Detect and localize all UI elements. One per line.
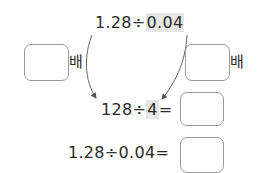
left-factor-answer-box[interactable] — [24, 44, 69, 81]
left-factor-unit: 배 — [69, 53, 83, 71]
top-operator: ÷ — [132, 13, 146, 32]
right-factor-answer-box[interactable] — [185, 44, 230, 81]
middle-answer-box[interactable] — [180, 92, 224, 126]
top-dividend: 1.28 — [95, 13, 132, 32]
bottom-operator: ÷ — [105, 143, 119, 162]
middle-equals: = — [159, 100, 173, 119]
right-arrow-icon — [162, 35, 187, 99]
top-expression: 1.28÷0.04 — [95, 13, 184, 33]
bottom-equals: = — [155, 143, 169, 162]
right-factor-unit: 배 — [230, 53, 244, 71]
middle-dividend: 128 — [101, 100, 132, 119]
middle-expression: 128÷4= — [101, 100, 172, 120]
middle-divisor: 4 — [146, 100, 158, 119]
top-divisor: 0.04 — [146, 13, 185, 32]
bottom-divisor: 0.04 — [119, 143, 156, 162]
left-arrow-icon — [86, 35, 96, 98]
bottom-answer-box[interactable] — [180, 137, 224, 173]
middle-operator: ÷ — [132, 100, 146, 119]
bottom-expression: 1.28÷0.04= — [68, 143, 169, 163]
bottom-dividend: 1.28 — [68, 143, 105, 162]
